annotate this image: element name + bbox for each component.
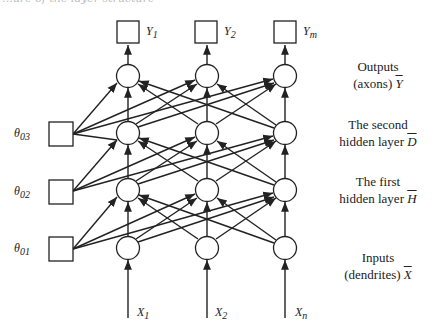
bias-label-01: θ01 [14,241,30,257]
neuron-output-1 [117,65,140,88]
output-label-m: Ym [303,24,317,40]
neuron-hidden2-2 [196,122,219,145]
bias-box-03 [49,122,73,146]
output-box-1 [117,21,139,43]
layer-label-outputs: Outputs (axons) Y [322,58,434,92]
neuron-hidden2-3 [274,122,297,145]
input-label-2: X2 [215,305,227,321]
neuron-output-m [274,65,297,88]
neuron-output-2 [196,65,219,88]
bias-label-02: θ02 [14,184,30,200]
output-box-2 [195,21,217,43]
connections [73,45,285,318]
input-label-1: X1 [137,305,149,321]
neuron-hidden1-2 [196,179,219,202]
output-box-m [274,21,296,43]
neuron-input-n [274,237,297,260]
neuron-hidden1-1 [117,179,140,202]
neuron-hidden1-3 [274,179,297,202]
bias-box-01 [49,237,73,261]
neuron-input-2 [196,237,219,260]
output-label-1: Y1 [146,24,158,40]
layer-label-inputs: Inputs (dendrites) X [322,249,434,283]
neural-network-diagram [0,0,442,335]
neuron-hidden2-1 [117,122,140,145]
input-label-n: Xn [295,305,307,321]
bias-box-02 [49,180,73,204]
layer-label-hidden2: The second hidden layer D [322,116,434,150]
bias-label-03: θ03 [14,126,30,142]
layer-label-hidden1: The first hidden layer H [322,173,434,207]
output-label-2: Y2 [224,24,236,40]
neuron-input-1 [117,237,140,260]
